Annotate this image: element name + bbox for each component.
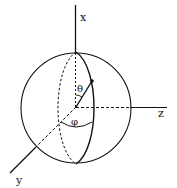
- phi-label: φ: [71, 116, 78, 127]
- z-axis-label: z: [158, 107, 164, 120]
- spherical-coordinates-diagram: x z y θ φ: [0, 0, 177, 188]
- y-axis: [10, 147, 36, 173]
- y-axis-label: y: [15, 174, 23, 187]
- theta-label: θ: [77, 83, 83, 94]
- y-axis-inner-dashed: [36, 107, 76, 147]
- x-axis-label: x: [80, 11, 87, 24]
- theta-arc: [76, 95, 82, 97]
- point-on-sphere: [90, 79, 94, 83]
- meridian-back: [58, 52, 76, 164]
